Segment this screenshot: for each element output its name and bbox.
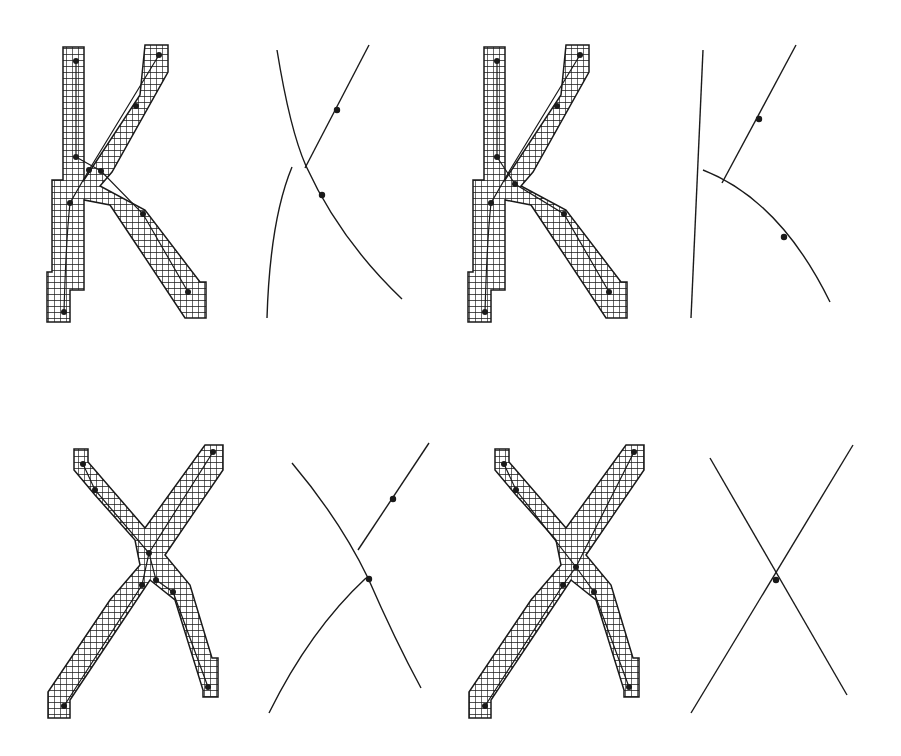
x-curves-panel-1: [269, 443, 429, 713]
k-raster-panel-1: [47, 45, 206, 322]
x-raster-panel-1: [48, 445, 223, 718]
stroke-extraction-diagram: [0, 0, 901, 756]
x-curves-panel-2: [691, 445, 853, 713]
k-raster-panel-2: [468, 45, 627, 322]
x-raster-panel-2: [469, 445, 644, 718]
k-curves-panel-2: [691, 45, 830, 318]
k-curves-panel-1: [267, 45, 402, 318]
